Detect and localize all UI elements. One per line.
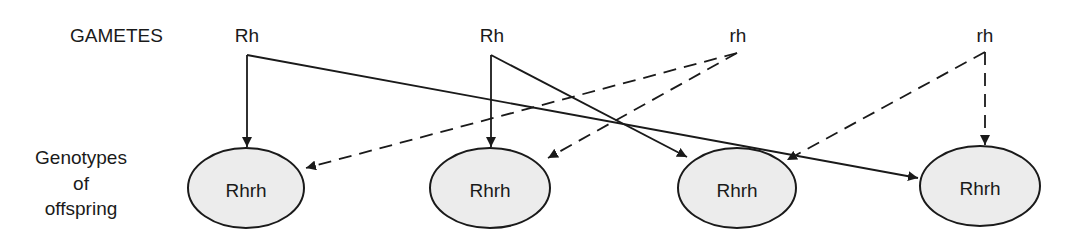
gamete-label-4: rh	[977, 26, 994, 45]
offspring-genotype-1: Rhrh	[225, 181, 266, 200]
offspring-ellipses	[188, 146, 1040, 228]
offspring-row-label-line2: of	[26, 171, 136, 197]
gamete-label-2: Rh	[480, 26, 504, 45]
gamete-label-3: rh	[730, 26, 747, 45]
offspring-genotype-2: Rhrh	[469, 181, 510, 200]
offspring-genotype-3: Rhrh	[716, 181, 757, 200]
dashed-arrow-g3-to-o2	[548, 53, 737, 158]
gametes-row-label: GAMETES	[70, 26, 163, 45]
offspring-genotype-4: Rhrh	[959, 179, 1000, 198]
offspring-row-label: Genotypes of offspring	[26, 145, 136, 222]
offspring-row-label-line3: offspring	[26, 196, 136, 222]
dashed-arrow-g4-to-o3	[787, 52, 985, 160]
inheritance-arrows	[247, 52, 985, 178]
offspring-row-label-line1: Genotypes	[26, 145, 136, 171]
diagram-canvas: GAMETES Rh Rh rh rh Genotypes of offspri…	[0, 0, 1072, 240]
gamete-label-1: Rh	[235, 26, 259, 45]
solid-arrow-g1-to-o4	[247, 55, 918, 178]
